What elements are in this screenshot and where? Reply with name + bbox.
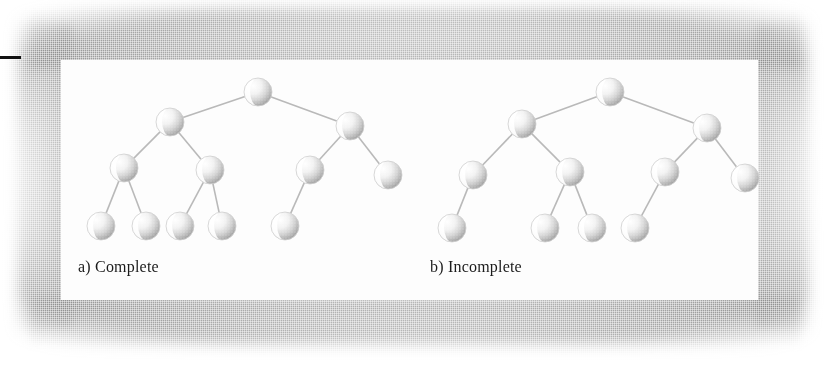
scan-shadow-right <box>756 26 810 326</box>
caption-complete: a) Complete <box>78 258 159 276</box>
figure-root: a) Complete b) Incomplete <box>0 0 826 368</box>
left-margin-rule <box>0 56 21 59</box>
scan-shadow-bottom <box>30 298 800 346</box>
caption-incomplete: b) Incomplete <box>430 258 522 276</box>
figure-plate <box>61 60 758 300</box>
